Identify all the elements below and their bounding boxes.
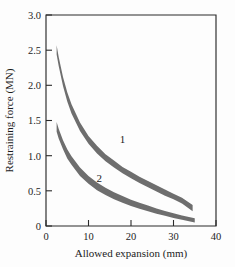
- y-tick-label-5: 2.5: [28, 45, 41, 56]
- y-tick-label-4: 2.0: [28, 80, 41, 91]
- y-tick-labels: 0 0.5 1.0 1.5 2.0 2.5 3.0: [28, 10, 41, 232]
- chart-figure: 0 0.5 1.0 1.5 2.0 2.5 3.0 0 10 20 30 40 …: [0, 0, 235, 267]
- x-axis-title: Allowed expansion (mm): [75, 247, 188, 260]
- x-tick-label-3: 30: [168, 231, 179, 242]
- y-tick-label-3: 1.5: [28, 115, 41, 126]
- y-axis-ticks: [46, 15, 52, 226]
- x-tick-label-4: 40: [211, 231, 222, 242]
- y-tick-label-1: 0.5: [28, 186, 41, 197]
- curve-label-1: 1: [120, 133, 126, 145]
- y-axis-title: Restraining force (MN): [3, 68, 16, 172]
- data-series-layer: [57, 45, 195, 222]
- x-tick-label-2: 20: [126, 231, 137, 242]
- y-tick-label-6: 3.0: [28, 10, 41, 21]
- y-tick-label-0: 0: [36, 221, 41, 232]
- chart-plot-area: 0 0.5 1.0 1.5 2.0 2.5 3.0 0 10 20 30 40 …: [0, 0, 235, 267]
- y-tick-label-2: 1.0: [28, 151, 41, 162]
- curve-label-2: 2: [96, 172, 102, 184]
- x-tick-labels: 0 10 20 30 40: [43, 231, 221, 242]
- axis-frame: [46, 15, 216, 226]
- x-tick-label-0: 0: [43, 231, 48, 242]
- curve-band-1: [57, 45, 193, 211]
- x-tick-label-1: 10: [83, 231, 94, 242]
